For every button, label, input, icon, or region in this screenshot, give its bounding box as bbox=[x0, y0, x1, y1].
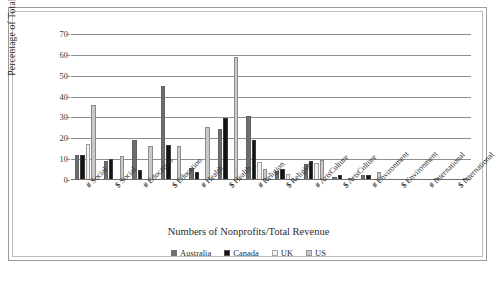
y-tick-mark-40 bbox=[66, 97, 70, 98]
legend-item-canada[interactable]: Canada bbox=[224, 248, 259, 258]
bar-australia bbox=[75, 155, 79, 180]
legend-item-uk[interactable]: UK bbox=[272, 248, 293, 258]
legend-swatch-icon bbox=[272, 250, 278, 256]
plot-area: 706050403020100 bbox=[71, 34, 471, 180]
chart-figure-frame: Percentage of Total 706050403020100 # So… bbox=[8, 7, 487, 261]
x-axis-title: Numbers of Nonprofits/Total Revenue bbox=[9, 226, 488, 237]
bar-group bbox=[271, 34, 300, 180]
y-tick-mark-0 bbox=[66, 180, 70, 181]
y-tick-label-30: 30 bbox=[28, 113, 68, 122]
y-tick-label-70: 70 bbox=[28, 30, 68, 39]
y-tick-mark-10 bbox=[66, 159, 70, 160]
legend-label: US bbox=[315, 248, 326, 258]
y-tick-mark-20 bbox=[66, 138, 70, 139]
chart-legend: AustraliaCanadaUKUS bbox=[9, 248, 488, 258]
legend-swatch-icon bbox=[224, 250, 230, 256]
y-tick-mark-70 bbox=[66, 34, 70, 35]
y-tick-mark-60 bbox=[66, 55, 70, 56]
y-tick-mark-50 bbox=[66, 76, 70, 77]
bar-groups bbox=[71, 34, 471, 180]
legend-label: Australia bbox=[180, 248, 211, 258]
y-tick-label-20: 20 bbox=[28, 134, 68, 143]
legend-label: UK bbox=[281, 248, 293, 258]
legend-label: Canada bbox=[233, 248, 259, 258]
bar-canada bbox=[252, 140, 256, 180]
bar-uk bbox=[86, 144, 90, 181]
bar-group bbox=[242, 34, 271, 180]
legend-swatch-icon bbox=[306, 250, 312, 256]
y-tick-label-60: 60 bbox=[28, 51, 68, 60]
bar-group bbox=[71, 34, 100, 180]
bar-group bbox=[300, 34, 329, 180]
legend-item-australia[interactable]: Australia bbox=[171, 248, 211, 258]
legend-swatch-icon bbox=[171, 250, 177, 256]
legend-item-us[interactable]: US bbox=[306, 248, 326, 258]
bar-group bbox=[128, 34, 157, 180]
bar-group bbox=[100, 34, 129, 180]
y-tick-label-10: 10 bbox=[28, 155, 68, 164]
y-tick-label-40: 40 bbox=[28, 93, 68, 102]
y-tick-mark-30 bbox=[66, 117, 70, 118]
bar-canada bbox=[109, 159, 113, 180]
bar-us bbox=[91, 105, 95, 180]
y-tick-label-50: 50 bbox=[28, 72, 68, 81]
bar-us bbox=[234, 57, 238, 180]
y-tick-label-0: 0 bbox=[28, 176, 68, 185]
bar-group bbox=[214, 34, 243, 180]
bar-canada bbox=[80, 155, 84, 180]
y-axis-title: Percentage of Total bbox=[7, 0, 17, 92]
